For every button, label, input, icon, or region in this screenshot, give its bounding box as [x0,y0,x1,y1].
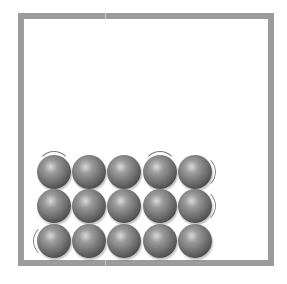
vibration-arc-icon [182,189,216,223]
vibration-arc-icon [33,224,67,258]
border-seam-top [105,13,106,19]
particle [107,155,141,189]
particle [72,224,106,258]
vibration-arc-icon [37,151,71,185]
particle [143,224,177,258]
vibration-arc-icon [143,151,177,185]
particle [72,155,106,189]
border-seam-bottom [105,260,106,266]
particle [107,189,141,223]
particle [72,189,106,223]
particle [37,189,71,223]
particle [178,224,212,258]
particle [143,189,177,223]
particle [107,224,141,258]
vibration-arc-icon [182,155,216,189]
